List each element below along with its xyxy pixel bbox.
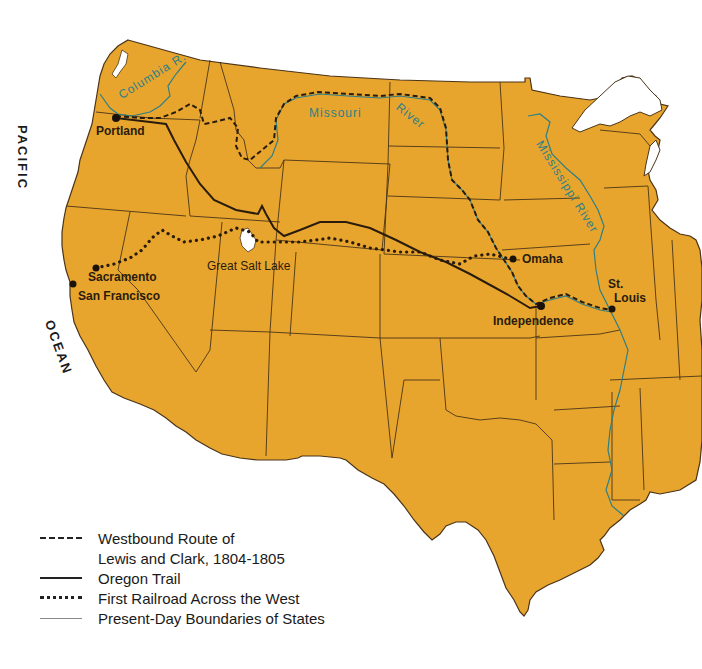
city-label-louis: Louis — [614, 291, 646, 305]
legend-label: Oregon Trail — [98, 570, 181, 587]
thin-line-icon — [40, 612, 82, 624]
dashed-line-icon — [40, 532, 82, 544]
legend-item-railroad: First Railroad Across the West — [40, 588, 420, 608]
city-label-sacramento: Sacramento — [88, 270, 157, 284]
missouri-river-label: Missouri — [309, 106, 362, 120]
legend-item-lewis-clark: Westbound Route of — [40, 528, 420, 548]
map-legend: Westbound Route of Lewis and Clark, 1804… — [40, 528, 420, 628]
legend-item-lewis-clark-cont: Lewis and Clark, 1804-1805 — [40, 548, 420, 568]
city-label-omaha: Omaha — [522, 252, 563, 266]
legend-label: Lewis and Clark, 1804-1805 — [98, 550, 285, 567]
legend-label: Westbound Route of — [98, 530, 234, 547]
legend-item-oregon-trail: Oregon Trail — [40, 568, 420, 588]
great-salt-lake-label: Great Salt Lake — [207, 259, 290, 273]
legend-label: Present-Day Boundaries of States — [98, 610, 325, 627]
portland-dot — [112, 114, 120, 122]
city-label-portland: Portland — [96, 124, 145, 138]
legend-item-state-boundaries: Present-Day Boundaries of States — [40, 608, 420, 628]
san-francisco-dot — [70, 281, 77, 288]
city-label-st: St. — [608, 277, 623, 291]
st-louis-dot — [609, 306, 616, 313]
legend-label: First Railroad Across the West — [98, 590, 299, 607]
independence-dot — [537, 302, 545, 310]
dotted-line-icon — [40, 592, 82, 604]
city-label-independence: Independence — [493, 314, 574, 328]
city-label-san-francisco: San Francisco — [78, 289, 160, 303]
pacific-label: PACIFIC — [15, 125, 30, 190]
solid-line-icon — [40, 572, 82, 584]
omaha-dot — [510, 256, 517, 263]
